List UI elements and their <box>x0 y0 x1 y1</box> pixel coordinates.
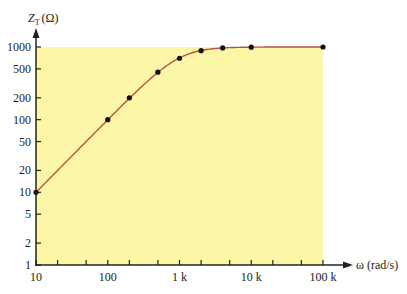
x-tick-label: 10 k <box>241 270 262 284</box>
y-axis-arrow-icon <box>33 28 40 38</box>
y-tick-label: 200 <box>13 91 31 105</box>
y-tick-label: 500 <box>13 62 31 76</box>
data-point <box>320 44 325 49</box>
y-axis-label: ZT(Ω) <box>28 11 59 27</box>
impedance-chart: 1251020501002005001000 101001 k10 k100 k… <box>0 0 407 294</box>
data-point <box>155 70 160 75</box>
x-tick-label: 10 <box>30 270 42 284</box>
y-tick-label: 20 <box>19 163 31 177</box>
x-tick-label: 1 k <box>172 270 187 284</box>
y-tick-label: 50 <box>19 135 31 149</box>
data-point <box>198 48 203 53</box>
data-point <box>220 45 225 50</box>
y-tick-label: 100 <box>13 113 31 127</box>
y-tick-label: 2 <box>25 236 31 250</box>
y-tick-label: 5 <box>25 207 31 221</box>
x-axis-label: ω (rad/s) <box>356 258 398 272</box>
y-tick-label: 10 <box>19 185 31 199</box>
data-point <box>249 45 254 50</box>
data-point <box>127 95 132 100</box>
x-axis-arrow-icon <box>343 262 353 269</box>
data-point <box>177 56 182 61</box>
data-point <box>105 117 110 122</box>
shaded-region <box>36 47 323 265</box>
x-tick-label: 100 k <box>310 270 337 284</box>
y-tick-label: 1000 <box>7 40 31 54</box>
x-tick-label: 100 <box>99 270 117 284</box>
